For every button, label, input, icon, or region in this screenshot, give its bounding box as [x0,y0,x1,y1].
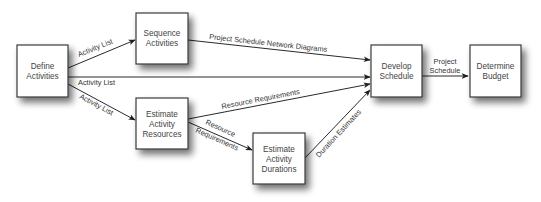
edge-define-to-develop: Activity List [68,77,370,87]
edge-label-activity-list-2: Activity List [78,78,115,87]
node-label-line: Develop [381,62,411,71]
node-label-line: Sequence [144,29,181,38]
edge-label-project-schedule-a: Project [433,57,456,66]
node-label-line: Activities [26,72,58,81]
node-label-line: Activity [149,120,176,129]
node-label-line: Activities [146,39,178,48]
node-sequence-activities: Sequence Activities [136,13,188,64]
node-estimate-activity-resources: Estimate Activity Resources [136,98,188,149]
node-label-line: Define [31,62,55,71]
edge-develop-to-budget: Project Schedule [422,57,468,76]
node-label-line: Schedule [379,72,414,81]
edge-resources-to-durations: Resource Requirements [188,118,252,153]
node-estimate-activity-durations: Estimate Activity Durations [253,133,305,184]
edge-label-resource-requirements: Resource Requirements [221,87,301,111]
node-label-line: Estimate [263,145,295,154]
node-label-line: Activity [266,155,293,164]
edge-label-duration-estimates: Duration Estimates [314,107,363,159]
edge-durations-to-develop: Duration Estimates [305,90,370,159]
node-label-line: Durations [261,165,296,174]
node-define-activities: Define Activities [17,45,68,97]
edge-label-network-diagrams: Project Schedule Network Diagrams [209,32,328,54]
edge-label-activity-list-1: Activity List [76,37,114,59]
node-label-line: Budget [483,72,510,81]
process-diagram: Activity List Activity List Activity Lis… [0,0,541,202]
node-determine-budget: Determine Budget [470,45,521,97]
node-label-line: Determine [477,62,515,71]
edge-label-project-schedule-b: Schedule [430,66,461,75]
edge-define-to-resources: Activity List [68,84,135,120]
edge-sequence-to-develop: Project Schedule Network Diagrams [188,32,370,60]
edge-label-activity-list-3: Activity List [78,92,115,117]
node-develop-schedule: Develop Schedule [371,45,422,97]
node-label-line: Resources [142,130,181,139]
node-label-line: Estimate [146,110,178,119]
edge-resources-to-develop: Resource Requirements [188,84,370,119]
edge-define-to-sequence: Activity List [68,37,135,68]
